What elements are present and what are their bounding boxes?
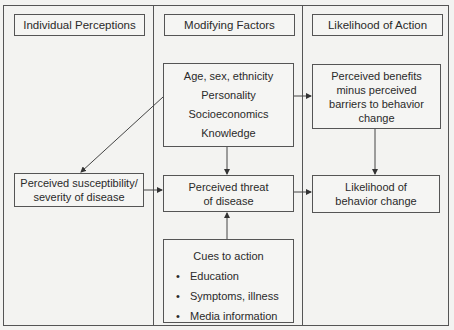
arrow-factors-to-susceptibility	[81, 97, 163, 172]
connector-arrows	[0, 0, 454, 330]
